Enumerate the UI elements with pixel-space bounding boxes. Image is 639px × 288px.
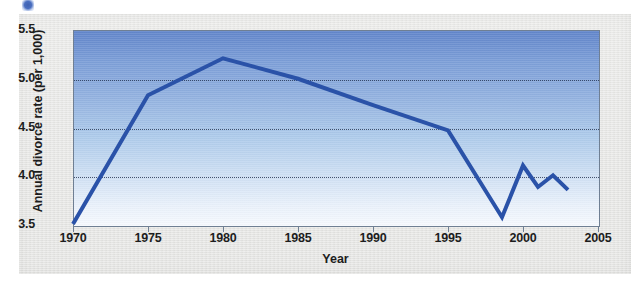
screenshot-root: 3.54.04.55.05.5 197019751980198519901995…: [0, 0, 639, 288]
x-tick-label-2000: 2000: [496, 231, 550, 245]
y-axis-label: Annual divorce rate (per 1,000): [31, 21, 45, 221]
gridline-y-4: [74, 177, 599, 178]
y-tick-label-5.0: 5.0: [0, 71, 35, 85]
y-tick-label-4.0: 4.0: [0, 168, 35, 182]
gridline-y-5: [74, 80, 599, 81]
y-tick-label-4.5: 4.5: [0, 120, 35, 134]
x-tick-label-1995: 1995: [421, 231, 475, 245]
x-axis-label: Year: [73, 252, 598, 266]
x-tick-label-1970: 1970: [46, 231, 100, 245]
x-tick-label-1975: 1975: [121, 231, 175, 245]
plot-area: [73, 30, 600, 227]
x-tick-label-1980: 1980: [196, 231, 250, 245]
x-tick-label-1985: 1985: [271, 231, 325, 245]
line-chart: 3.54.04.55.05.5 197019751980198519901995…: [0, 0, 639, 288]
x-tick-label-1990: 1990: [346, 231, 400, 245]
x-tick-label-2005: 2005: [571, 231, 625, 245]
y-tick-label-3.5: 3.5: [0, 217, 35, 231]
gridline-y-4.5: [74, 129, 599, 130]
y-tick-label-5.5: 5.5: [0, 22, 35, 36]
